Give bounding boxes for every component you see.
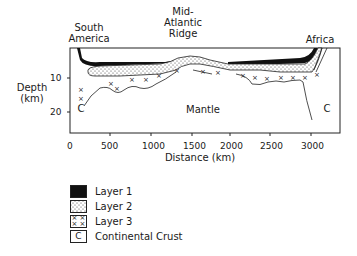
layer1-east xyxy=(228,48,318,66)
layer3-boundary-east xyxy=(236,74,312,120)
svg-text:×: × xyxy=(174,67,180,75)
svg-text:×: × xyxy=(78,95,84,103)
label-continental-east: C xyxy=(322,103,332,114)
svg-text:×: × xyxy=(215,69,221,77)
legend-label: Layer 3 xyxy=(95,216,132,227)
svg-text:×: × xyxy=(108,80,114,88)
legend-item-layer1: Layer 1 xyxy=(70,184,132,198)
svg-text:×: × xyxy=(200,68,206,76)
legend-swatch-stipple xyxy=(70,200,87,213)
label-mantle: Mantle xyxy=(178,104,228,115)
svg-text:×: × xyxy=(240,72,246,80)
svg-text:×: × xyxy=(290,74,296,82)
legend-swatch-solid xyxy=(70,185,87,198)
legend-label: Layer 2 xyxy=(95,201,132,212)
legend-label: Layer 1 xyxy=(95,186,132,197)
cross-section-diagram: ×× ×× ×× ×× ×× ×× ×× ×× × xyxy=(0,0,357,256)
svg-text:×: × xyxy=(129,76,135,84)
legend-swatch-c: C xyxy=(70,230,87,243)
svg-text:×: × xyxy=(314,71,320,79)
legend-swatch-crosses: × ×× × xyxy=(70,215,87,228)
legend-item-layer2: Layer 2 xyxy=(70,199,132,213)
svg-text:×: × xyxy=(156,72,162,80)
legend-item-layer3: × ×× × Layer 3 xyxy=(70,214,132,228)
legend-label: Continental Crust xyxy=(95,231,183,242)
svg-text:×: × xyxy=(278,74,284,82)
legend-item-continental-crust: C Continental Crust xyxy=(70,229,183,243)
svg-text:×: × xyxy=(264,75,270,83)
svg-text:×: × xyxy=(252,74,258,82)
svg-text:×: × xyxy=(143,76,149,84)
svg-text:×: × xyxy=(302,74,308,82)
svg-text:×: × xyxy=(114,85,120,93)
label-continental-west: C xyxy=(76,103,86,114)
svg-text:×: × xyxy=(78,86,84,94)
